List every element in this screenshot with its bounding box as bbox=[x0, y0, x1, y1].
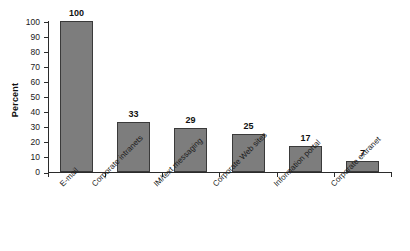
y-tick-label-30: 30 bbox=[20, 122, 40, 132]
y-tick-label-90: 90 bbox=[20, 32, 40, 42]
y-tick-label-40: 40 bbox=[20, 107, 40, 117]
bar-chart: Percent 100 90 80 70 60 50 40 30 20 10 0… bbox=[0, 0, 410, 251]
y-tick-label-20: 20 bbox=[20, 137, 40, 147]
y-tick-label-60: 60 bbox=[20, 77, 40, 87]
y-axis-title: Percent bbox=[10, 78, 20, 122]
y-axis-line bbox=[48, 21, 49, 173]
y-tick-label-10: 10 bbox=[20, 152, 40, 162]
y-tick-label-70: 70 bbox=[20, 62, 40, 72]
y-tick-label-50: 50 bbox=[20, 92, 40, 102]
bar-value-im-text-messaging: 29 bbox=[170, 115, 211, 125]
y-tick-label-0: 0 bbox=[20, 167, 40, 177]
x-tick-mark-0 bbox=[48, 173, 49, 177]
y-tick-label-100: 100 bbox=[20, 17, 40, 27]
bar-value-corporate-web-sites: 25 bbox=[228, 121, 269, 131]
bar-e-mail bbox=[60, 21, 93, 172]
bar-value-e-mail: 100 bbox=[56, 8, 97, 18]
y-tick-label-80: 80 bbox=[20, 47, 40, 57]
x-tick-mark-6 bbox=[391, 173, 392, 177]
bar-value-corporate-intranets: 33 bbox=[113, 109, 154, 119]
